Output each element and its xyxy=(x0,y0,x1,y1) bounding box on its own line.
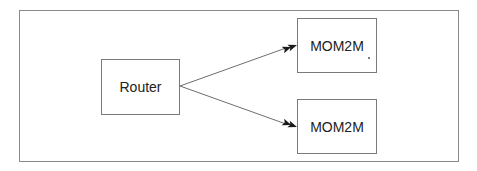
mom2m-top-node: MOM2M xyxy=(297,18,377,73)
stray-dot xyxy=(368,57,370,59)
mom2m-top-label: MOM2M xyxy=(310,38,364,54)
router-label: Router xyxy=(119,79,161,95)
mom2m-bottom-node: MOM2M xyxy=(297,99,377,154)
diagram-frame xyxy=(19,10,459,162)
router-node: Router xyxy=(101,59,180,115)
mom2m-bottom-label: MOM2M xyxy=(310,119,364,135)
